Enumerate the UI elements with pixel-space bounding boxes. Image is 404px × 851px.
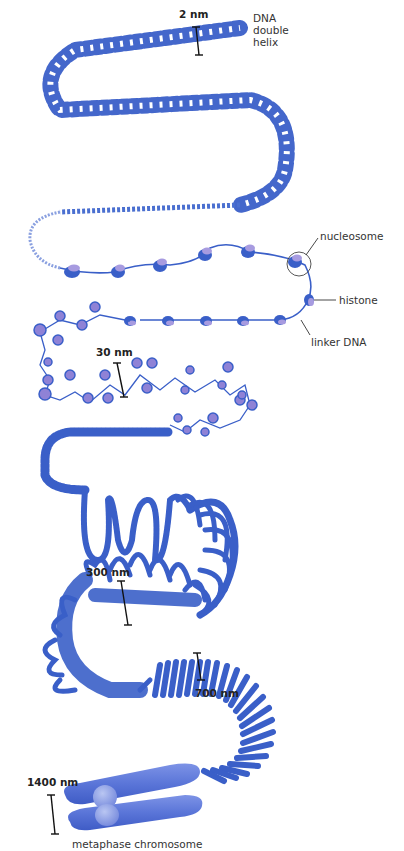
- label-dna-line3: helix: [253, 36, 278, 48]
- label-dna-line1: DNA: [253, 12, 277, 24]
- chromatin-packing-diagram: 2 nm DNA double helix: [0, 0, 404, 851]
- label-metaphase-chromosome: metaphase chromosome: [72, 838, 202, 850]
- scale-label-300nm: 300 nm: [86, 566, 130, 578]
- label-dna-line2: double: [253, 24, 289, 36]
- scale-label-1400nm: 1400 nm: [27, 776, 78, 788]
- nucleosome-string: [60, 245, 314, 327]
- fiber-30nm: [34, 302, 257, 436]
- looped-domains: [45, 432, 235, 691]
- scale-label-30nm: 30 nm: [96, 346, 133, 358]
- scale-label-700nm: 700 nm: [195, 687, 239, 699]
- coil-700nm: [140, 662, 273, 781]
- label-nucleosome: nucleosome: [320, 230, 383, 242]
- metaphase-chromosome: [64, 764, 202, 831]
- label-linker-dna: linker DNA: [311, 336, 367, 348]
- scale-bar-1400nm: 1400 nm: [27, 776, 78, 834]
- label-histone: histone: [339, 294, 378, 306]
- dna-double-helix: [30, 28, 287, 268]
- scale-label-2nm: 2 nm: [179, 8, 208, 20]
